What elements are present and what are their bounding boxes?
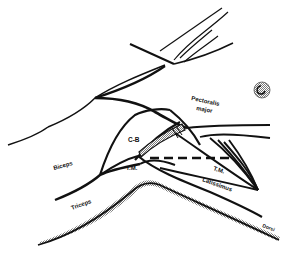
diagram-canvas: Pectoralis major Biceps C-B T.M. T.M. La… (0, 0, 284, 257)
trunk-contour (38, 180, 280, 245)
label-coracobrachialis: C-B (128, 136, 140, 143)
clavicle-line (130, 44, 174, 64)
anatomy-diagram: Pectoralis major Biceps C-B T.M. T.M. La… (0, 0, 284, 257)
label-triceps: Triceps (70, 198, 92, 211)
hatched-tendon (139, 124, 185, 157)
upper-fibers (160, 8, 228, 62)
ring-structure (254, 82, 270, 98)
label-teres-major-left: T.M. (126, 165, 138, 171)
pectoralis-major (48, 65, 270, 128)
label-pectoralis: Pectoralis (191, 95, 221, 107)
label-biceps: Biceps (53, 160, 74, 171)
label-major: major (196, 105, 214, 114)
